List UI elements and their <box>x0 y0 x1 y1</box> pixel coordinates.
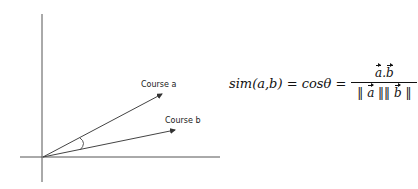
formula-lhs: sim(a,b) = cosθ = <box>229 76 346 91</box>
vector-a-label: Course a <box>141 80 176 89</box>
cosine-similarity-formula: sim(a,b) = cosθ = a.b ‖ a ‖‖ b ‖ <box>229 58 417 108</box>
vector-a-arrow <box>43 94 162 157</box>
vector-b-arrow <box>43 130 175 157</box>
formula-fraction: a.b ‖ a ‖‖ b ‖ <box>351 66 417 100</box>
norm-mid: ‖‖ <box>378 86 390 100</box>
norm-open: ‖ <box>357 86 363 100</box>
vector-a-symbol: a <box>367 86 374 100</box>
norm-close: ‖ <box>405 86 411 100</box>
formula-numerator: a.b <box>369 66 400 82</box>
vector-a-symbol: a <box>375 66 382 80</box>
vector-b-symbol: b <box>394 86 402 100</box>
vector-b-symbol: b <box>386 66 394 80</box>
formula-denominator: ‖ a ‖‖ b ‖ <box>351 82 417 100</box>
angle-arc <box>80 138 84 150</box>
cosine-similarity-diagram: Course a Course b sim(a,b) = cosθ = a.b … <box>0 0 418 189</box>
vector-b-label: Course b <box>165 116 201 125</box>
